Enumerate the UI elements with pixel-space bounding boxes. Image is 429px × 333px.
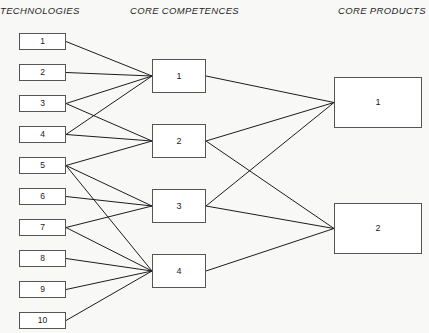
technology-node-7[interactable]: 7 bbox=[19, 219, 66, 236]
link-technology-3-to-competence-1 bbox=[66, 76, 152, 104]
link-competence-2-to-product-1 bbox=[206, 103, 334, 142]
link-competence-2-to-product-2 bbox=[206, 141, 334, 229]
core-competence-diagram: TECHNOLOGIES CORE COMPETENCES CORE PRODU… bbox=[0, 0, 429, 333]
core-competence-node-2[interactable]: 2 bbox=[152, 124, 206, 158]
technology-node-4[interactable]: 4 bbox=[19, 126, 66, 143]
technology-node-5[interactable]: 5 bbox=[19, 157, 66, 174]
link-competence-1-to-product-1 bbox=[206, 76, 334, 103]
core-product-node-1[interactable]: 1 bbox=[334, 77, 422, 128]
link-technology-4-to-competence-1 bbox=[66, 76, 152, 135]
link-technology-10-to-competence-4 bbox=[66, 271, 152, 321]
technology-node-6[interactable]: 6 bbox=[19, 188, 66, 205]
technology-node-10[interactable]: 10 bbox=[19, 312, 66, 329]
technology-node-2[interactable]: 2 bbox=[19, 64, 66, 81]
link-technology-5-to-competence-2 bbox=[66, 141, 152, 166]
link-technology-5-to-competence-4 bbox=[66, 166, 152, 272]
column-header-technologies: TECHNOLOGIES bbox=[0, 5, 80, 16]
link-competence-3-to-product-2 bbox=[206, 206, 334, 229]
link-competence-3-to-product-1 bbox=[206, 103, 334, 207]
link-technology-1-to-competence-1 bbox=[66, 42, 152, 77]
link-technology-7-to-competence-3 bbox=[66, 206, 152, 228]
link-technology-9-to-competence-4 bbox=[66, 271, 152, 290]
link-technology-7-to-competence-4 bbox=[66, 228, 152, 272]
core-product-node-2[interactable]: 2 bbox=[334, 203, 422, 254]
link-competence-4-to-product-2 bbox=[206, 229, 334, 272]
link-technology-4-to-competence-2 bbox=[66, 135, 152, 142]
link-technology-2-to-competence-1 bbox=[66, 73, 152, 77]
link-technology-8-to-competence-4 bbox=[66, 259, 152, 272]
core-competence-node-1[interactable]: 1 bbox=[152, 59, 206, 93]
column-header-core-products: CORE PRODUCTS bbox=[338, 5, 426, 16]
core-competence-node-4[interactable]: 4 bbox=[152, 254, 206, 288]
link-technology-3-to-competence-2 bbox=[66, 104, 152, 142]
link-technology-5-to-competence-3 bbox=[66, 166, 152, 207]
technology-node-9[interactable]: 9 bbox=[19, 281, 66, 298]
column-header-core-competences: CORE COMPETENCES bbox=[130, 5, 239, 16]
technology-node-3[interactable]: 3 bbox=[19, 95, 66, 112]
link-technology-6-to-competence-3 bbox=[66, 197, 152, 207]
core-competence-node-3[interactable]: 3 bbox=[152, 189, 206, 223]
technology-node-1[interactable]: 1 bbox=[19, 33, 66, 50]
technology-node-8[interactable]: 8 bbox=[19, 250, 66, 267]
